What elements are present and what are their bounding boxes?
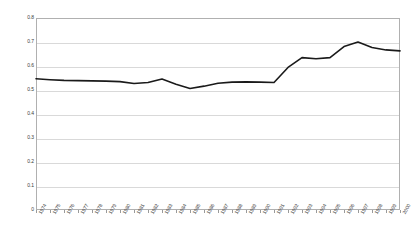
y-axis-tick-label: 0.6 bbox=[8, 63, 34, 68]
y-axis-tick-label: 0.5 bbox=[8, 87, 34, 92]
x-axis: 1974197519761977197819791980198119821983… bbox=[36, 212, 400, 241]
line-chart: 00.10.20.30.40.50.60.70.8 19741975197619… bbox=[0, 0, 419, 241]
y-axis-tick-label: 0.4 bbox=[8, 111, 34, 116]
y-axis-tick-label: 0.3 bbox=[8, 135, 34, 140]
y-axis-tick-label: 0.2 bbox=[8, 159, 34, 164]
data-series-line bbox=[36, 18, 400, 210]
y-axis-tick-label: 0.8 bbox=[8, 15, 34, 20]
series-polyline bbox=[36, 42, 400, 89]
y-axis-tick-label: 0.1 bbox=[8, 183, 34, 188]
y-axis-tick-label: 0.7 bbox=[8, 39, 34, 44]
y-axis-tick-label: 0 bbox=[8, 207, 34, 212]
